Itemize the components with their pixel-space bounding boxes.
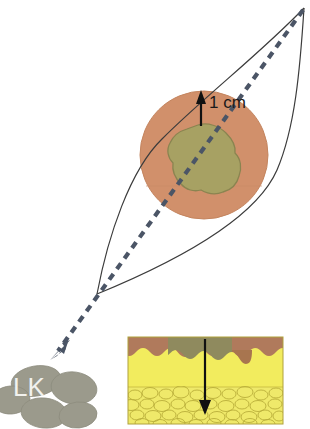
lymphatic-drainage-dashed-line <box>58 10 303 351</box>
melanoma-excision-figure: 1 cm LK <box>0 0 310 429</box>
margin-scale-label: 1 cm <box>209 94 246 111</box>
illustration-canvas <box>0 0 310 429</box>
lymph-node-label: LK <box>13 374 45 400</box>
skin-cross-section-inset <box>123 337 285 429</box>
lymph-node <box>58 400 99 429</box>
